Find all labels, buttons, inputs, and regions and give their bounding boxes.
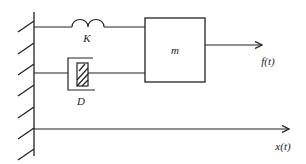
diagram-drawing: [0, 0, 306, 164]
spring-k: [34, 20, 145, 28]
spring-label: K: [83, 33, 90, 44]
fixed-wall: [18, 12, 34, 160]
damper-label: D: [77, 96, 85, 107]
damper-d: [34, 58, 145, 90]
force-label: f(t): [261, 56, 274, 67]
displacement-label: x(t): [275, 141, 290, 152]
mass-spring-damper-diagram: K D m f(t) x(t): [0, 0, 306, 164]
mass-label: m: [171, 45, 179, 56]
